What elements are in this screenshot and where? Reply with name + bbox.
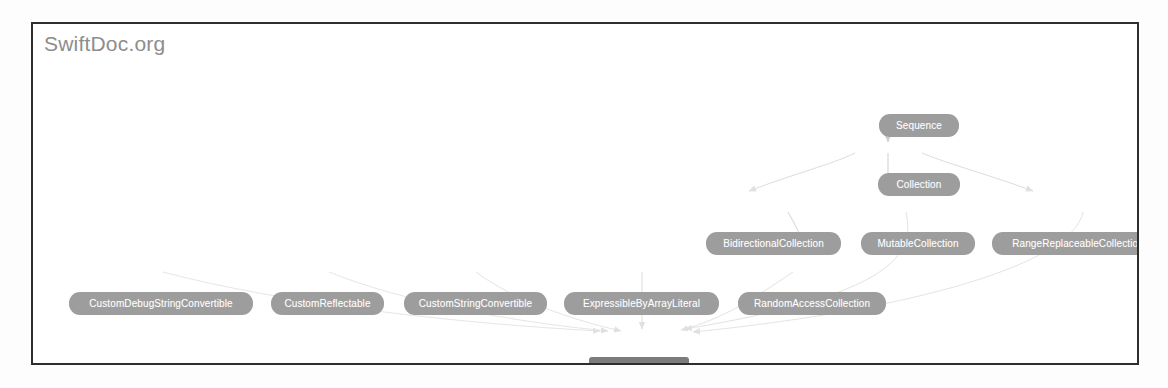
node-random-access-collection[interactable]: RandomAccessCollection [738, 292, 886, 315]
node-label: RangeReplaceableCollection [1012, 238, 1137, 248]
node-custom-string-convertible[interactable]: CustomStringConvertible [404, 292, 547, 315]
inheritance-diagram: Sequence Collection BidirectionalCollect… [33, 24, 1137, 363]
node-label: BidirectionalCollection [723, 238, 824, 248]
node-custom-reflectable[interactable]: CustomReflectable [271, 292, 384, 315]
node-label: CustomStringConvertible [419, 298, 532, 308]
node-array-element[interactable]: Array<Element> [589, 357, 689, 363]
node-collection[interactable]: Collection [878, 173, 960, 196]
page-title: SwiftDoc.org [44, 32, 165, 56]
node-label: RandomAccessCollection [754, 298, 870, 308]
node-label: CustomDebugStringConvertible [89, 298, 232, 308]
page-root: Sequence Collection BidirectionalCollect… [0, 0, 1168, 388]
node-label: Collection [897, 179, 942, 189]
node-custom-debug-string-convertible[interactable]: CustomDebugStringConvertible [69, 292, 253, 315]
swiftdoc-panel: Sequence Collection BidirectionalCollect… [31, 22, 1139, 365]
node-label: MutableCollection [877, 238, 958, 248]
node-bidirectional-collection[interactable]: BidirectionalCollection [706, 232, 841, 255]
node-range-replaceable-collection[interactable]: RangeReplaceableCollection [992, 232, 1137, 255]
node-label: Sequence [896, 120, 942, 130]
node-mutable-collection[interactable]: MutableCollection [861, 232, 975, 255]
node-label: ExpressibleByArrayLiteral [583, 298, 700, 308]
node-label: CustomReflectable [284, 298, 370, 308]
node-sequence[interactable]: Sequence [879, 114, 959, 137]
edge-collection-bidirectional [749, 153, 855, 191]
node-expressible-by-array-literal[interactable]: ExpressibleByArrayLiteral [564, 292, 719, 315]
